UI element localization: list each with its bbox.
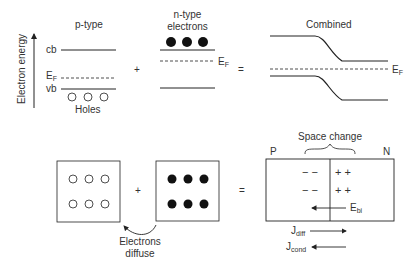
p-ef-label: EF (46, 70, 57, 82)
n-region-label: N (383, 146, 390, 157)
plus-operator-top: + (134, 64, 140, 75)
positive-charges-row1: + + (335, 166, 351, 178)
equals-operator-bottom: = (239, 185, 245, 196)
negative-charges-row1: − − (302, 166, 318, 178)
p-type-title: p-type (75, 19, 103, 30)
n-type-title: n-typeelectrons (165, 9, 210, 33)
vb-label: vb (46, 83, 57, 94)
jdiff-label: Jdiff (291, 225, 305, 237)
plus-operator-bottom: + (135, 185, 141, 196)
electrons-icon (166, 37, 208, 47)
holes-label: Holes (75, 104, 101, 115)
space-charge-label: Space change (298, 131, 362, 142)
diffusion-arrow (124, 225, 156, 235)
combined-title: Combined (306, 19, 352, 30)
holes-icon (68, 93, 108, 101)
p-block (57, 161, 120, 222)
cb-label: cb (46, 44, 57, 55)
jcond-label: Jcond (286, 241, 306, 253)
combined-ef-label: EF (392, 64, 403, 76)
equals-operator-top: = (238, 64, 244, 75)
n-block-electrons-icon (168, 175, 209, 209)
combined-conduction-band (270, 36, 388, 61)
n-block (156, 161, 219, 221)
energy-axis-label: Electron energy (16, 34, 27, 104)
negative-charges-row2: − − (302, 184, 318, 196)
space-charge-brace (305, 144, 355, 154)
built-in-field-label: Ebi (350, 202, 362, 214)
p-block-holes-icon (69, 175, 109, 208)
p-region-label: P (270, 146, 277, 157)
n-ef-label: EF (218, 56, 229, 68)
positive-charges-row2: + + (335, 184, 351, 196)
combined-valence-band (270, 76, 388, 100)
electrons-diffuse-label: Electronsdiffuse (115, 236, 165, 260)
